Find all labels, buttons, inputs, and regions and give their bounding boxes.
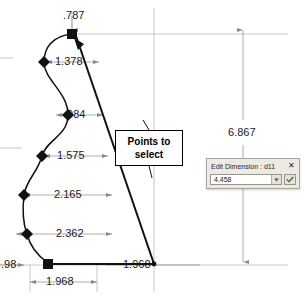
dialog-titlebar[interactable]: Edit Dimension : d11 ✕: [207, 159, 299, 173]
control-point-1575: [36, 150, 48, 162]
chevron-down-icon[interactable]: [271, 175, 281, 184]
dimension-label-098[interactable]: .98: [1, 258, 16, 270]
callout-leader-upper: [143, 120, 149, 130]
control-point-2165: [18, 189, 30, 201]
dimension-label-1968-lower[interactable]: 1.968: [46, 275, 74, 287]
dialog-body: [207, 173, 299, 188]
origin-point[interactable]: [152, 262, 157, 267]
control-point-1378: [38, 56, 50, 68]
chord-direction-arrow: [74, 38, 84, 50]
dimension-label-2362[interactable]: 2.362: [56, 227, 84, 239]
dimension-label-1968-baseline[interactable]: 1.968: [123, 258, 151, 270]
dimension-label-0787[interactable]: .787: [63, 9, 84, 21]
dimension-label-6867[interactable]: 6.867: [228, 126, 256, 138]
dimension-label-1575[interactable]: 1.575: [57, 149, 85, 161]
dimension-label-1378[interactable]: 1.378: [55, 55, 83, 67]
cad-sketch-screenshot: .787 1.378 .984 1.575 2.165 2.362 .98 1.…: [0, 0, 307, 300]
dialog-title: Edit Dimension : d11: [211, 163, 275, 170]
callout-text-line-1: Points to: [128, 135, 171, 148]
selected-point-bottom-left[interactable]: [43, 259, 53, 269]
annotation-callout-points-to-select: Points to select: [115, 130, 183, 166]
callout-text-line-2: select: [135, 148, 163, 161]
control-point-2362: [21, 228, 33, 240]
dimension-label-0984[interactable]: .984: [64, 108, 85, 120]
accept-checkmark-button[interactable]: [284, 174, 296, 185]
dimension-label-2165[interactable]: 2.165: [54, 188, 82, 200]
selected-point-top[interactable]: [67, 29, 77, 39]
callout-leader-lower: [149, 166, 152, 178]
close-icon[interactable]: ✕: [287, 162, 296, 170]
edit-dimension-dialog[interactable]: Edit Dimension : d11 ✕: [206, 158, 300, 189]
dimension-value-field-wrap[interactable]: [210, 174, 282, 185]
